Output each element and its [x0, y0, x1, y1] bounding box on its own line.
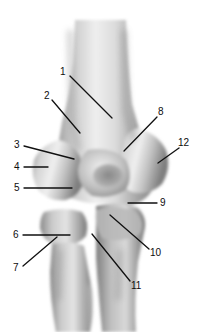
- label-number-2: 2: [44, 91, 50, 101]
- elbow-specimen-image: [0, 0, 203, 332]
- label-number-12: 12: [178, 138, 189, 148]
- label-number-3: 3: [14, 140, 20, 150]
- label-number-6: 6: [13, 230, 19, 240]
- label-number-8: 8: [158, 107, 164, 117]
- label-number-1: 1: [60, 67, 66, 77]
- label-number-11: 11: [131, 281, 141, 291]
- label-number-7: 7: [13, 263, 19, 273]
- figure-page: ANTERIOR: [0, 0, 203, 332]
- label-number-10: 10: [150, 248, 161, 258]
- label-number-5: 5: [14, 183, 20, 193]
- label-number-4: 4: [14, 162, 20, 172]
- label-number-9: 9: [160, 198, 166, 208]
